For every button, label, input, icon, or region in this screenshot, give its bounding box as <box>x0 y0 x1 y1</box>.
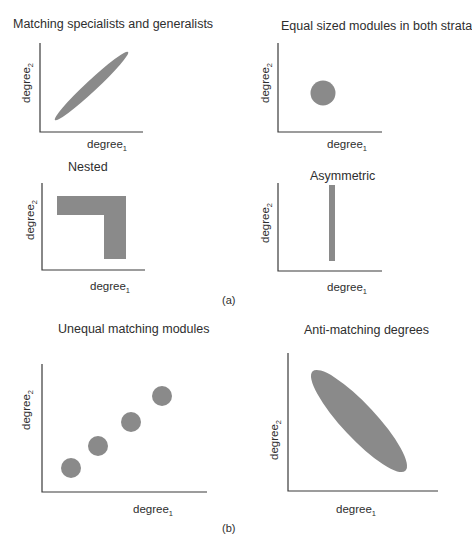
bar-asymmetric <box>329 185 335 261</box>
ellipse-matching <box>51 48 132 124</box>
l-shape-nested <box>57 196 126 259</box>
circle-equal <box>311 81 336 106</box>
xlabel-nested: degree1 <box>90 280 130 295</box>
module-circle-4 <box>152 386 172 406</box>
xlabel-anti: degree1 <box>336 503 376 518</box>
subfigure-label-a: (a) <box>222 294 235 306</box>
ylabel-equal: degree2 <box>259 63 274 103</box>
ellipse-anti <box>300 360 418 483</box>
module-circle-1 <box>61 458 81 478</box>
module-circle-2 <box>88 436 108 456</box>
module-circle-3 <box>121 412 141 432</box>
shapes <box>51 48 418 482</box>
xlabel-matching: degree1 <box>87 138 127 153</box>
ylabel-unequal: degree2 <box>20 390 35 430</box>
xlabel-asymmetric: degree1 <box>327 281 367 296</box>
ylabel-matching: degree2 <box>20 63 35 103</box>
ylabel-nested: degree2 <box>24 200 39 240</box>
xlabel-unequal: degree1 <box>133 503 173 518</box>
subfigure-label-b: (b) <box>222 522 235 534</box>
ylabel-anti: degree2 <box>268 420 283 460</box>
xlabel-equal: degree1 <box>327 138 367 153</box>
ylabel-asymmetric: degree2 <box>259 203 274 243</box>
